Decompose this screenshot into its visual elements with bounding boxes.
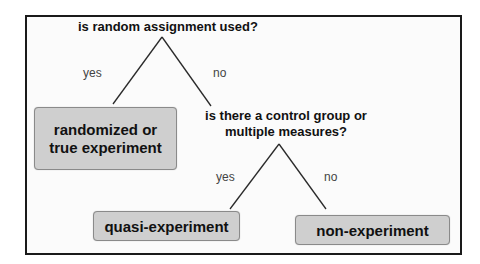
second-question-line2: multiple measures? (200, 124, 372, 140)
root-no-label: no (213, 66, 226, 80)
root-question-text: is random assignment used? (78, 19, 258, 34)
outcome-quasi-experiment: quasi-experiment (93, 211, 240, 241)
second-question-line1: is there a control group or (200, 108, 372, 124)
second-question: is there a control group or multiple mea… (200, 108, 372, 140)
diagram-canvas: is random assignment used? yes no random… (0, 0, 480, 264)
root-yes-label: yes (83, 66, 102, 80)
outcome-randomized-line2: true experiment (49, 139, 162, 157)
root-question: is random assignment used? (78, 19, 250, 35)
outcome-randomized-experiment: randomized or true experiment (34, 107, 177, 170)
outcome-non-experiment: non-experiment (295, 215, 450, 245)
outcome-quasi-text: quasi-experiment (104, 218, 228, 235)
second-no-label: no (324, 170, 337, 184)
outcome-randomized-line1: randomized or (49, 121, 162, 139)
outcome-non-text: non-experiment (316, 222, 429, 239)
second-yes-label: yes (216, 170, 235, 184)
